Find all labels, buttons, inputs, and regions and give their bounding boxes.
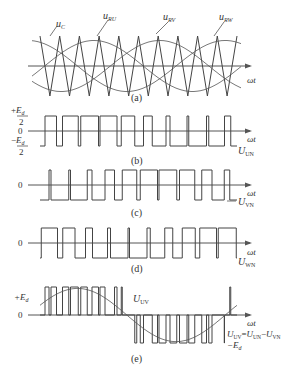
panel-e-ytick-top: +Ed — [14, 292, 30, 303]
panel-a-axis-label: ωt — [247, 75, 256, 85]
panel-b-axis-arrow-icon — [245, 129, 252, 134]
panel-d-phase-w-voltage: 0 ωt UWN (d) — [18, 228, 256, 275]
panel-c-caption: (c) — [131, 207, 142, 219]
panel-e-ytick-bottom: −Ed — [227, 340, 243, 351]
panel-d-axis-arrow-icon — [245, 241, 252, 246]
label-urv: uRV — [163, 11, 177, 23]
panel-d-axis-label: ωt — [247, 247, 256, 257]
label-leader-uru — [97, 20, 108, 36]
panel-e-equation: UUV=UUN−UVN — [227, 329, 281, 340]
panel-d-ytick-zero: 0 — [18, 238, 23, 248]
panel-e-axis-arrow-icon — [245, 313, 252, 318]
panel-c-axis-label: ωt — [247, 188, 256, 198]
panel-c-axis-arrow-icon — [245, 183, 252, 188]
panel-b-axis-label: ωt — [247, 134, 256, 144]
panel-b-caption: (b) — [131, 155, 143, 167]
panel-a-carrier-and-references: uC uRU uRV uRW ωt (a) — [28, 10, 256, 104]
panel-e-line-voltage: +Ed 0 −Ed UUV ωt UUV=UUN−UVN (e) — [14, 287, 281, 365]
panel-c-phase-v-voltage: 0 ωt UVN (c) — [18, 170, 256, 219]
label-uru: uRU — [103, 10, 117, 22]
panel-b-signal-label: UUN — [238, 145, 255, 157]
panel-a-axis-arrow-icon — [245, 64, 252, 69]
panel-e-signal-label: UUV — [133, 293, 150, 305]
panel-a-caption: (a) — [131, 92, 142, 104]
panel-d-caption: (d) — [131, 263, 143, 275]
label-leader-urv — [156, 22, 168, 34]
panel-d-signal-label: UWN — [238, 256, 256, 268]
panel-e-caption: (e) — [131, 353, 142, 365]
panel-b-ytick-bot-num: −Ed — [11, 135, 26, 146]
label-urw: uRW — [219, 11, 234, 23]
label-uc: uC — [56, 18, 66, 30]
panel-b-phase-u-voltage: +Ed 2 0 −Ed 2 ωt UUN (b) — [11, 105, 256, 167]
spwm-waveform-figure: uC uRU uRV uRW ωt (a) +Ed 2 0 −Ed 2 ωt U… — [0, 0, 304, 377]
label-leader-urw — [214, 22, 224, 36]
panel-e-axis-label: ωt — [247, 318, 256, 328]
panel-b-ytick-bot-den: 2 — [19, 147, 24, 157]
panel-c-ytick-zero: 0 — [18, 180, 23, 190]
panel-e-ytick-zero: 0 — [18, 310, 23, 320]
panel-b-ytick-top-num: +Ed — [11, 105, 26, 116]
